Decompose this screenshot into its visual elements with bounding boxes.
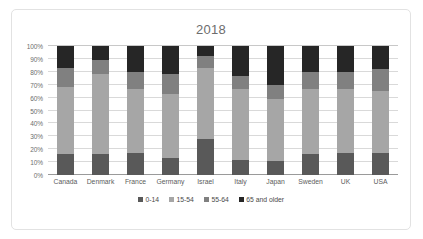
y-axis-tick-label: 60% <box>30 94 43 101</box>
legend-label: 65 and older <box>246 196 284 203</box>
bar-segment[interactable] <box>232 46 250 76</box>
x-axis-tick-label: Israel <box>190 178 222 192</box>
legend-label: 15-54 <box>177 196 194 203</box>
bar-segment[interactable] <box>372 153 390 175</box>
bar-segment[interactable] <box>337 89 355 154</box>
bar-segment[interactable] <box>57 87 75 154</box>
bar-segment[interactable] <box>337 46 355 72</box>
plot-area <box>48 46 398 175</box>
bar-group[interactable] <box>330 46 362 175</box>
bar-segment[interactable] <box>197 139 215 175</box>
bar-stack[interactable] <box>232 46 250 175</box>
bar-segment[interactable] <box>127 72 145 89</box>
x-axis: CanadaDenmarkFranceGermanyIsraelItalyJap… <box>48 178 398 192</box>
legend-swatch-icon <box>204 197 209 202</box>
bar-segment[interactable] <box>232 89 250 160</box>
x-axis-tick-label: Italy <box>225 178 257 192</box>
x-axis-tick-label: France <box>120 178 152 192</box>
bar-segment[interactable] <box>267 99 285 161</box>
bar-segment[interactable] <box>57 154 75 175</box>
bar-segment[interactable] <box>127 46 145 72</box>
legend-item[interactable]: 15-54 <box>169 196 194 203</box>
y-axis-tick-label: 20% <box>30 146 43 153</box>
bar-stack[interactable] <box>337 46 355 175</box>
y-axis-tick-label: 70% <box>30 81 43 88</box>
bar-stack[interactable] <box>127 46 145 175</box>
legend-swatch-icon <box>169 197 174 202</box>
bar-segment[interactable] <box>162 94 180 159</box>
bar-group[interactable] <box>295 46 327 175</box>
bar-segment[interactable] <box>267 161 285 175</box>
y-axis-tick-label: 10% <box>30 159 43 166</box>
bar-segment[interactable] <box>302 46 320 72</box>
bar-stack[interactable] <box>302 46 320 175</box>
bar-group[interactable] <box>190 46 222 175</box>
bar-segment[interactable] <box>232 160 250 175</box>
bar-stack[interactable] <box>92 46 110 175</box>
x-axis-tick-label: Sweden <box>295 178 327 192</box>
x-axis-tick-label: Germany <box>155 178 187 192</box>
bar-segment[interactable] <box>267 46 285 85</box>
bar-group[interactable] <box>155 46 187 175</box>
y-axis-tick-label: 90% <box>30 55 43 62</box>
y-axis: 0%10%20%30%40%50%60%70%80%90%100% <box>12 46 45 175</box>
legend-item[interactable]: 65 and older <box>239 196 284 203</box>
bar-segment[interactable] <box>302 72 320 89</box>
bar-segment[interactable] <box>92 74 110 154</box>
x-axis-tick-label: Canada <box>50 178 82 192</box>
y-axis-tick-label: 50% <box>30 107 43 114</box>
bar-segment[interactable] <box>92 46 110 60</box>
legend-label: 55-64 <box>211 196 228 203</box>
chart-container: 2018 0%10%20%30%40%50%60%70%80%90%100% C… <box>11 9 411 230</box>
bar-segment[interactable] <box>197 68 215 139</box>
bars-layer <box>48 46 398 175</box>
bar-stack[interactable] <box>267 46 285 175</box>
bar-segment[interactable] <box>162 46 180 74</box>
bar-stack[interactable] <box>57 46 75 175</box>
bar-segment[interactable] <box>57 68 75 87</box>
bar-stack[interactable] <box>372 46 390 175</box>
bar-segment[interactable] <box>232 76 250 89</box>
legend-label: 0-14 <box>145 196 159 203</box>
x-axis-tick-label: UK <box>330 178 362 192</box>
bar-segment[interactable] <box>92 154 110 175</box>
x-axis-tick-label: Japan <box>260 178 292 192</box>
bar-segment[interactable] <box>57 46 75 68</box>
bar-segment[interactable] <box>372 69 390 91</box>
chart-title: 2018 <box>12 22 410 37</box>
y-axis-tick-label: 100% <box>27 43 43 50</box>
bar-segment[interactable] <box>337 72 355 89</box>
bar-group[interactable] <box>50 46 82 175</box>
bar-segment[interactable] <box>197 56 215 68</box>
bar-segment[interactable] <box>372 46 390 69</box>
bar-segment[interactable] <box>162 74 180 93</box>
bar-segment[interactable] <box>162 158 180 175</box>
bar-group[interactable] <box>225 46 257 175</box>
bar-stack[interactable] <box>162 46 180 175</box>
bar-group[interactable] <box>85 46 117 175</box>
bar-segment[interactable] <box>92 60 110 74</box>
bar-segment[interactable] <box>127 153 145 175</box>
x-axis-tick-label: USA <box>365 178 397 192</box>
bar-group[interactable] <box>120 46 152 175</box>
y-axis-tick-label: 80% <box>30 68 43 75</box>
bar-group[interactable] <box>365 46 397 175</box>
x-axis-tick-label: Denmark <box>85 178 117 192</box>
bar-segment[interactable] <box>372 91 390 153</box>
legend-swatch-icon <box>138 197 143 202</box>
bar-stack[interactable] <box>197 46 215 175</box>
y-axis-tick-label: 40% <box>30 120 43 127</box>
legend-item[interactable]: 55-64 <box>204 196 229 203</box>
bar-segment[interactable] <box>197 46 215 56</box>
legend-swatch-icon <box>239 197 244 202</box>
legend-item[interactable]: 0-14 <box>138 196 159 203</box>
y-axis-tick-label: 30% <box>30 133 43 140</box>
chart-legend: 0-1415-5455-6465 and older <box>12 196 410 203</box>
bar-group[interactable] <box>260 46 292 175</box>
bar-segment[interactable] <box>302 154 320 175</box>
bar-segment[interactable] <box>127 89 145 154</box>
bar-segment[interactable] <box>267 85 285 99</box>
bar-segment[interactable] <box>302 89 320 155</box>
y-axis-tick-label: 0% <box>34 172 43 179</box>
bar-segment[interactable] <box>337 153 355 175</box>
